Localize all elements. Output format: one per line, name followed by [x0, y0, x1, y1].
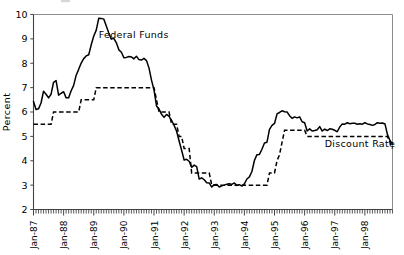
- plot-frame: [34, 15, 393, 210]
- clipped-text-remnant: [61, 0, 70, 2]
- x-tick-label: Jan-95: [270, 221, 280, 251]
- y-tick-label: 8: [21, 58, 27, 69]
- chart-canvas: 1098765432 Jan-87Jan-88Jan-89Jan-90Jan-9…: [0, 0, 404, 255]
- x-tick-label: Jan-90: [119, 220, 129, 250]
- clipped-title-remnant: [61, 0, 70, 2]
- series-annotations: Federal FundsDiscount Rate: [99, 29, 395, 150]
- series-line-discount-rate: [34, 88, 393, 186]
- x-tick-label: Jan-91: [150, 221, 160, 251]
- series-line-federal-funds: [34, 18, 393, 187]
- y-tick-label: 7: [21, 82, 27, 93]
- interest-rate-chart: 1098765432 Jan-87Jan-88Jan-89Jan-90Jan-9…: [0, 0, 404, 255]
- y-axis-title-group: Percent: [1, 93, 12, 132]
- annotation-discount-rate: Discount Rate: [325, 138, 395, 149]
- x-tick-label: Jan-97: [330, 221, 340, 251]
- y-tick-label: 5: [21, 131, 27, 142]
- y-tick-label: 2: [21, 204, 27, 215]
- y-tick-label: 4: [21, 155, 27, 166]
- x-tick-label: Jan-98: [360, 220, 370, 250]
- y-tick-label: 10: [15, 9, 27, 20]
- y-tick-label: 6: [21, 106, 27, 117]
- annotation-federal-funds: Federal Funds: [99, 29, 169, 40]
- y-axis: 1098765432: [15, 9, 33, 215]
- x-tick-label: Jan-88: [59, 220, 69, 250]
- x-tick-label: Jan-96: [300, 220, 310, 250]
- data-series-group: [34, 18, 393, 187]
- x-tick-label: Jan-87: [29, 221, 39, 251]
- x-tick-label: Jan-93: [210, 221, 220, 251]
- x-tick-label: Jan-89: [89, 220, 99, 250]
- y-tick-label: 3: [21, 180, 27, 191]
- y-axis-title: Percent: [1, 93, 12, 132]
- plot-border: [34, 15, 393, 210]
- x-axis: Jan-87Jan-88Jan-89Jan-90Jan-91Jan-92Jan-…: [29, 210, 392, 251]
- x-tick-label: Jan-94: [240, 220, 250, 250]
- x-tick-label: Jan-92: [180, 221, 190, 251]
- y-tick-label: 9: [21, 33, 27, 44]
